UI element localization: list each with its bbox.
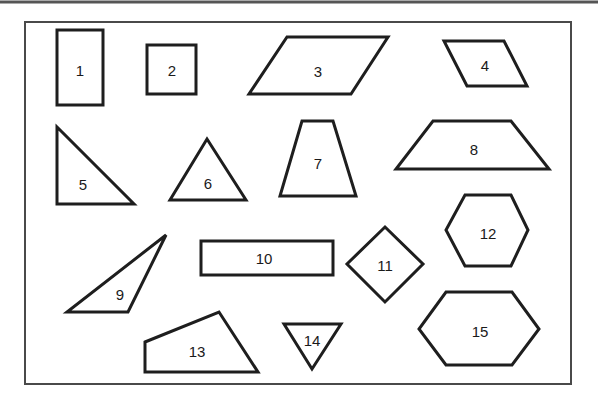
shape-6: 6 [170, 139, 246, 200]
shape-15: 15 [419, 292, 539, 365]
shape-4: 4 [444, 41, 527, 86]
shape-14: 14 [284, 324, 341, 369]
shape-5: 5 [57, 127, 134, 204]
shape-label: 5 [79, 176, 87, 193]
shape-label: 2 [168, 62, 176, 79]
shape-11: 11 [347, 227, 423, 302]
shape-label: 10 [256, 250, 273, 267]
shapes-layer: 123456789101112131415 [57, 30, 549, 372]
shape-label: 3 [314, 63, 322, 80]
shape-2: 2 [147, 45, 196, 94]
shape-label: 7 [314, 155, 322, 172]
shape-label: 1 [76, 62, 84, 79]
shape-12: 12 [446, 195, 528, 266]
shape-1: 1 [57, 30, 103, 105]
shape-10: 10 [201, 241, 333, 275]
shape-label: 9 [116, 286, 124, 303]
shapes-diagram: 123456789101112131415 [0, 0, 598, 403]
shape-label: 8 [470, 141, 478, 158]
shape-3: 3 [249, 37, 388, 94]
shape-label: 6 [204, 175, 212, 192]
shape-label: 4 [481, 57, 489, 74]
shape-9: 9 [67, 235, 166, 312]
right-triangle-outline [57, 127, 134, 204]
shape-label: 12 [480, 225, 497, 242]
shape-label: 15 [472, 323, 489, 340]
shape-7: 7 [280, 121, 356, 196]
shape-label: 11 [377, 257, 393, 274]
shape-13: 13 [145, 312, 258, 372]
shape-label: 13 [189, 343, 206, 360]
shape-label: 14 [304, 332, 321, 349]
shape-8: 8 [396, 121, 549, 169]
